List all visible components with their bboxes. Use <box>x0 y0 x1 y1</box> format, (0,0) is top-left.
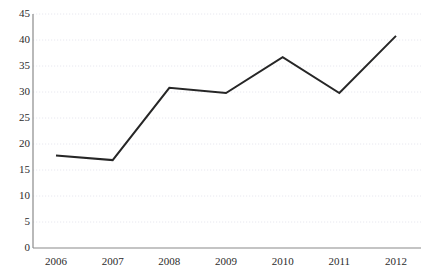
x-axis-tick: 2007 <box>83 256 143 270</box>
x-axis-tick-label: 2012 <box>366 256 426 267</box>
y-axis-tick-label: 30 <box>6 86 30 97</box>
x-axis-tick: 2012 <box>366 256 426 270</box>
y-axis-tick-label: 45 <box>6 8 30 19</box>
x-axis-tick: 2006 <box>26 256 86 270</box>
y-axis-tick-label: 5 <box>6 216 30 227</box>
y-axis-tick-label: 40 <box>6 34 30 45</box>
y-axis-tick-label: 25 <box>6 112 30 123</box>
axes-group <box>33 14 421 248</box>
x-axis-tick-label: 2008 <box>139 256 199 267</box>
y-axis-tick-label: 10 <box>6 190 30 201</box>
x-axis-tick: 2011 <box>309 256 369 270</box>
chart-plot-area <box>0 0 433 280</box>
y-axis-tick-label: 15 <box>6 164 30 175</box>
x-axis-tick-label: 2006 <box>26 256 86 267</box>
x-axis-tick-label: 2011 <box>309 256 369 267</box>
x-axis-tick: 2009 <box>196 256 256 270</box>
y-axis-tick-label: 35 <box>6 60 30 71</box>
x-axis-tick: 2010 <box>253 256 313 270</box>
x-axis-tick-label: 2009 <box>196 256 256 267</box>
x-axis-tick-label: 2010 <box>253 256 313 267</box>
y-axis-tick-label: 0 <box>6 242 30 253</box>
line-chart: 051015202530354045 200620072008200920102… <box>0 0 433 280</box>
gridlines-group <box>33 14 421 222</box>
x-axis-tick: 2008 <box>139 256 199 270</box>
data-series-line <box>56 36 396 160</box>
x-axis-tick-label: 2007 <box>83 256 143 267</box>
y-axis-tick-label: 20 <box>6 138 30 149</box>
